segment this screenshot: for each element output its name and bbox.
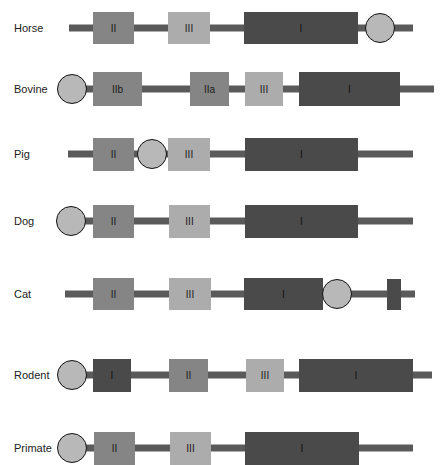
exon-box-dog-i: I xyxy=(245,205,358,238)
circle-marker-icon xyxy=(322,279,352,309)
circle-marker-icon xyxy=(365,13,395,43)
exon-box-rodent-i: I xyxy=(93,359,131,392)
exon-label: IIb xyxy=(112,84,123,95)
species-label-bovine: Bovine xyxy=(14,83,48,95)
exon-label: I xyxy=(300,216,303,227)
species-label-cat: Cat xyxy=(14,288,31,300)
exon-box-bovine-iib: IIb xyxy=(93,72,142,106)
exon-box-primate-i: I xyxy=(245,432,359,465)
exon-box-cat-unlabeled xyxy=(387,279,401,310)
exon-box-primate-iii: III xyxy=(170,432,211,465)
species-label-rodent: Rodent xyxy=(14,369,49,381)
exon-label: I xyxy=(300,149,303,160)
circle-marker-icon xyxy=(137,139,167,169)
exon-label: III xyxy=(260,84,268,95)
exon-box-horse-ii: II xyxy=(93,12,134,44)
exon-label: II xyxy=(112,443,118,454)
exon-box-cat-iii: III xyxy=(169,278,211,310)
exon-label: I xyxy=(355,370,358,381)
exon-box-bovine-iia: IIa xyxy=(190,72,229,106)
exon-box-pig-i: I xyxy=(245,138,358,171)
exon-label: III xyxy=(185,23,193,34)
exon-box-cat-ii: II xyxy=(93,278,134,310)
exon-label: III xyxy=(261,370,269,381)
exon-label: III xyxy=(185,216,193,227)
exon-label: I xyxy=(111,370,114,381)
exon-box-pig-ii: II xyxy=(93,138,134,171)
exon-label: II xyxy=(111,289,117,300)
exon-label: I xyxy=(348,84,351,95)
exon-box-primate-ii: II xyxy=(94,432,135,465)
exon-label: II xyxy=(111,23,117,34)
species-label-primate: Primate xyxy=(14,442,52,454)
exon-box-bovine-i: I xyxy=(299,72,400,106)
circle-marker-icon xyxy=(57,74,87,104)
exon-label: III xyxy=(186,289,194,300)
exon-box-rodent-iii: III xyxy=(246,359,284,392)
exon-label: I xyxy=(282,289,285,300)
circle-marker-icon xyxy=(57,360,87,390)
exon-box-bovine-iii: III xyxy=(245,72,283,106)
exon-label: II xyxy=(111,149,117,160)
circle-marker-icon xyxy=(56,206,86,236)
circle-marker-icon xyxy=(57,433,87,463)
exon-label: III xyxy=(185,149,193,160)
exon-box-rodent-ii: II xyxy=(169,359,208,392)
exon-box-rodent-i: I xyxy=(299,359,413,392)
exon-box-cat-i: I xyxy=(244,278,323,310)
exon-box-dog-ii: II xyxy=(93,205,134,238)
exon-box-horse-iii: III xyxy=(168,12,210,44)
exon-label: I xyxy=(301,443,304,454)
species-label-dog: Dog xyxy=(14,215,34,227)
exon-label: I xyxy=(300,23,303,34)
exon-label: III xyxy=(186,443,194,454)
exon-label: II xyxy=(186,370,192,381)
exon-label: IIa xyxy=(204,84,215,95)
species-label-pig: Pig xyxy=(14,148,30,160)
exon-label: II xyxy=(111,216,117,227)
exon-box-dog-iii: III xyxy=(169,205,210,238)
exon-box-pig-iii: III xyxy=(168,138,210,171)
exon-box-horse-i: I xyxy=(244,12,358,44)
species-label-horse: Horse xyxy=(14,22,43,34)
